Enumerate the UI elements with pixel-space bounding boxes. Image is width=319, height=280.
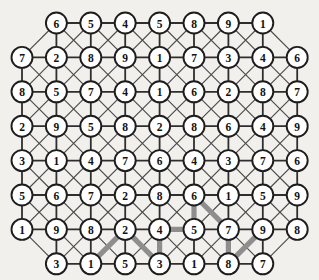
graph-node[interactable]: 2 [149, 116, 170, 137]
graph-node[interactable]: 8 [287, 219, 308, 240]
graph-node[interactable]: 1 [149, 47, 170, 68]
node-label: 6 [191, 190, 197, 202]
node-label: 1 [19, 224, 25, 236]
graph-node[interactable]: 8 [184, 116, 205, 137]
node-label: 6 [54, 18, 60, 30]
node-label: 3 [54, 258, 60, 270]
graph-node[interactable]: 4 [252, 47, 273, 68]
graph-node[interactable]: 9 [46, 219, 67, 240]
graph-node[interactable]: 5 [252, 185, 273, 206]
graph-node[interactable]: 6 [46, 13, 67, 34]
node-label: 2 [157, 121, 163, 133]
graph-node[interactable]: 2 [218, 81, 239, 102]
graph-node[interactable]: 7 [287, 81, 308, 102]
graph-node[interactable]: 5 [80, 116, 101, 137]
node-label: 1 [54, 155, 60, 167]
graph-node[interactable]: 3 [218, 47, 239, 68]
node-label: 6 [226, 121, 232, 133]
graph-node[interactable]: 1 [80, 253, 101, 274]
graph-node[interactable]: 8 [184, 13, 205, 34]
graph-node[interactable]: 9 [46, 116, 67, 137]
node-label: 3 [226, 52, 232, 64]
graph-node[interactable]: 6 [218, 116, 239, 137]
graph-node[interactable]: 1 [218, 185, 239, 206]
graph-node[interactable]: 7 [218, 219, 239, 240]
graph-node[interactable]: 3 [46, 253, 67, 274]
node-label: 6 [54, 190, 60, 202]
graph-node[interactable]: 9 [287, 185, 308, 206]
node-label: 8 [191, 18, 197, 30]
node-label: 7 [260, 155, 266, 167]
graph-node[interactable]: 4 [80, 150, 101, 171]
node-label: 1 [88, 258, 94, 270]
graph-node[interactable]: 7 [12, 47, 33, 68]
graph-node[interactable]: 2 [12, 116, 33, 137]
graph-node[interactable]: 5 [184, 219, 205, 240]
graph-node[interactable]: 5 [80, 13, 101, 34]
graph-node[interactable]: 6 [287, 47, 308, 68]
graph-node[interactable]: 1 [149, 81, 170, 102]
node-label: 6 [294, 155, 300, 167]
graph-node[interactable]: 7 [252, 253, 273, 274]
node-label: 4 [88, 155, 94, 167]
graph-node[interactable]: 4 [149, 219, 170, 240]
graph-node[interactable]: 8 [149, 185, 170, 206]
node-label: 9 [226, 18, 232, 30]
graph-node[interactable]: 4 [115, 81, 136, 102]
node-label: 1 [226, 190, 232, 202]
graph-node[interactable]: 4 [184, 150, 205, 171]
graph-node[interactable]: 5 [46, 81, 67, 102]
node-label: 3 [19, 155, 25, 167]
graph-node[interactable]: 5 [12, 185, 33, 206]
graph-node[interactable]: 7 [184, 47, 205, 68]
graph-node[interactable]: 6 [46, 185, 67, 206]
node-label: 2 [226, 86, 232, 98]
graph-node[interactable]: 2 [115, 185, 136, 206]
graph-node[interactable]: 8 [80, 47, 101, 68]
graph-node[interactable]: 7 [252, 150, 273, 171]
graph-node[interactable]: 8 [80, 219, 101, 240]
graph-node[interactable]: 6 [184, 185, 205, 206]
graph-node[interactable]: 3 [218, 150, 239, 171]
graph-node[interactable]: 7 [80, 81, 101, 102]
graph-node[interactable]: 3 [149, 253, 170, 274]
graph-node[interactable]: 6 [184, 81, 205, 102]
graph-node[interactable]: 1 [12, 219, 33, 240]
graph-node[interactable]: 5 [149, 13, 170, 34]
graph-node[interactable]: 1 [184, 253, 205, 274]
graph-node[interactable]: 7 [80, 185, 101, 206]
graph-node[interactable]: 5 [115, 253, 136, 274]
node-label: 9 [54, 224, 60, 236]
node-label: 5 [88, 121, 94, 133]
graph-node[interactable]: 6 [287, 150, 308, 171]
graph-node[interactable]: 8 [12, 81, 33, 102]
graph-node[interactable]: 4 [115, 13, 136, 34]
graph-node[interactable]: 4 [252, 116, 273, 137]
node-label: 5 [88, 18, 94, 30]
node-label: 8 [260, 86, 266, 98]
graph-node[interactable]: 9 [115, 47, 136, 68]
graph-node[interactable]: 8 [252, 81, 273, 102]
graph-node[interactable]: 9 [252, 219, 273, 240]
lattice-graph-svg: 6545891728917346857416287295828649314764… [0, 0, 319, 280]
node-label: 8 [122, 121, 128, 133]
graph-node[interactable]: 8 [115, 116, 136, 137]
graph-node[interactable]: 1 [46, 150, 67, 171]
graph-node[interactable]: 7 [115, 150, 136, 171]
node-label: 1 [260, 18, 266, 30]
graph-node[interactable]: 8 [218, 253, 239, 274]
graph-node[interactable]: 3 [12, 150, 33, 171]
node-label: 9 [260, 224, 266, 236]
graph-node[interactable]: 2 [115, 219, 136, 240]
graph-node[interactable]: 1 [252, 13, 273, 34]
graph-node[interactable]: 2 [46, 47, 67, 68]
graph-node[interactable]: 9 [218, 13, 239, 34]
node-label: 1 [191, 258, 197, 270]
node-label: 4 [260, 52, 266, 64]
graph-node[interactable]: 9 [287, 116, 308, 137]
node-label: 8 [88, 224, 94, 236]
node-label: 6 [294, 52, 300, 64]
node-label: 8 [226, 258, 232, 270]
node-label: 4 [260, 121, 266, 133]
graph-node[interactable]: 6 [149, 150, 170, 171]
